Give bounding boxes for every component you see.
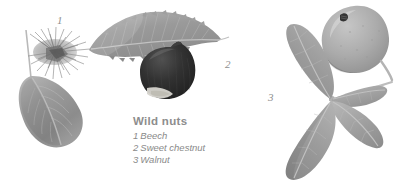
beech-husk xyxy=(28,27,90,79)
caption-title: Wild nuts xyxy=(133,115,253,128)
figure-label-2: 2 xyxy=(225,58,231,70)
walnut-leaflet-lower-right xyxy=(330,101,384,148)
beech-petiole xyxy=(26,30,31,78)
botanical-plate: 1 2 3 Wild nuts 1Beech 2Sweet chestnut 3… xyxy=(0,0,399,191)
walnut-fruit-stalk xyxy=(381,61,392,80)
walnut-leaflet-lower-left xyxy=(286,102,336,180)
caption-item-label: Sweet chestnut xyxy=(140,142,205,153)
caption-item-label: Walnut xyxy=(140,154,169,165)
caption-block: Wild nuts 1Beech 2Sweet chestnut 3Walnut xyxy=(133,115,253,167)
caption-item-sweet-chestnut: 2Sweet chestnut xyxy=(133,142,253,154)
caption-item-number: 1 xyxy=(133,130,138,141)
figure-label-3: 3 xyxy=(268,91,274,103)
caption-item-walnut: 3Walnut xyxy=(133,154,253,166)
figure-label-1: 1 xyxy=(57,14,63,26)
specimen-walnut xyxy=(262,2,399,187)
caption-item-number: 3 xyxy=(133,154,138,165)
caption-item-number: 2 xyxy=(133,142,138,153)
caption-item-label: Beech xyxy=(140,130,167,141)
walnut-fruit xyxy=(322,6,392,80)
specimen-sweet-chestnut xyxy=(85,2,230,112)
beech-leaf xyxy=(19,76,83,147)
caption-list: 1Beech 2Sweet chestnut 3Walnut xyxy=(133,130,253,167)
caption-item-beech: 1Beech xyxy=(133,130,253,142)
